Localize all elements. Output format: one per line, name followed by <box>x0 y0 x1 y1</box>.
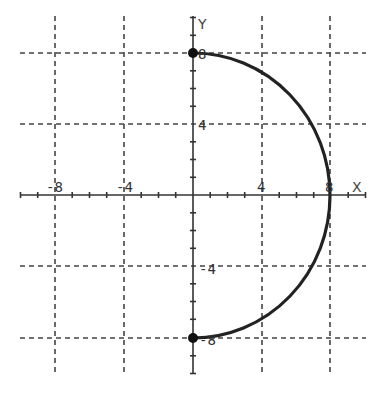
y-tick-label-neg4: -4 <box>199 261 216 277</box>
y-tick-label-neg8: -8 <box>199 332 216 348</box>
point-bottom <box>188 333 198 343</box>
x-tick-label-4: 4 <box>257 179 265 195</box>
y-axis-label: Y <box>197 16 207 32</box>
x-tick-label-neg4: -4 <box>116 179 133 195</box>
point-top <box>188 48 198 58</box>
x-tick-label-8: 8 <box>325 179 333 195</box>
y-tick-label-4: 4 <box>198 117 206 133</box>
x-tick-label-neg8: -8 <box>46 179 63 195</box>
semicircle-chart: -8 -4 4 8 8 4 -4 -8 X Y <box>0 0 381 394</box>
y-tick-label-8: 8 <box>198 46 206 62</box>
axes <box>20 16 366 374</box>
x-axis-label: X <box>352 179 362 195</box>
